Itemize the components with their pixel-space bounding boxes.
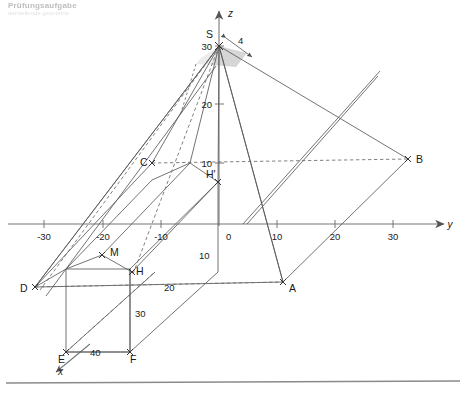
aux-ray-right-1: [247, 76, 378, 224]
z-axis-label: z: [227, 8, 233, 19]
point-label-B: B: [416, 153, 423, 165]
dim-label-height: 30: [135, 308, 146, 319]
figure-page: Prüfungsaufgabe darstellende geometrie: [0, 0, 466, 394]
x-axis-label: x: [57, 366, 64, 377]
point-label-S: S: [206, 28, 213, 40]
tick-y-neg10: -10: [154, 231, 168, 242]
tick-z-30: 30: [201, 41, 212, 52]
point-label-M: M: [110, 246, 119, 258]
dim-label-roof: 10: [199, 250, 210, 261]
y-axis-label: y: [447, 219, 454, 230]
dashed-lines: [35, 46, 408, 352]
ray-S-B: [219, 46, 408, 159]
roof-ridge: [102, 163, 190, 255]
axonometric-diagram: y z x -30 -20 -10 0 10 20 30 10 20 30 S …: [0, 0, 466, 394]
construction-lines: [35, 46, 408, 352]
point-label-H: H: [136, 265, 144, 277]
tick-y-20: 20: [330, 231, 341, 242]
tick-z-20: 20: [201, 99, 212, 110]
shadow-edge-A-B: [283, 159, 408, 282]
tick-y-neg20: -20: [96, 231, 110, 242]
point-label-F: F: [130, 353, 136, 365]
aux-line-1: [46, 66, 216, 296]
point-label-A: A: [289, 282, 296, 294]
point-markers: [32, 42, 411, 355]
tick-y-neg30: -30: [37, 231, 51, 242]
dim-label-depth: 40: [90, 347, 101, 358]
tick-y-10: 10: [272, 231, 283, 242]
point-label-D: D: [20, 282, 28, 294]
tick-origin: 0: [226, 231, 231, 242]
far-roof-left: [152, 163, 190, 180]
point-label-C: C: [140, 156, 148, 168]
dim-label-apex-offset: 4: [238, 35, 243, 46]
dim-label-width: 20: [164, 282, 175, 293]
tick-y-30: 30: [388, 231, 399, 242]
point-label-Hprime: H': [206, 168, 216, 180]
bottom-rule: [6, 381, 460, 383]
point-label-E: E: [58, 353, 65, 365]
